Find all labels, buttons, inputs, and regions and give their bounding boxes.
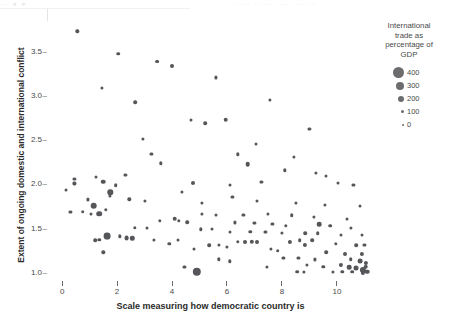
y-tick-mark: – xyxy=(42,179,47,188)
data-point xyxy=(354,266,359,271)
data-point xyxy=(158,219,161,222)
data-point xyxy=(260,180,263,183)
legend-item: 400 xyxy=(378,66,449,79)
data-point xyxy=(271,223,274,226)
data-point xyxy=(312,215,315,218)
x-tick-mark xyxy=(281,281,282,286)
data-point xyxy=(339,263,343,267)
x-tick-mark xyxy=(117,281,118,286)
data-point xyxy=(153,238,156,241)
data-point xyxy=(317,222,322,227)
data-point xyxy=(104,233,111,240)
data-point xyxy=(315,171,318,174)
data-point xyxy=(102,251,105,254)
x-tick-label: 0 xyxy=(60,287,64,296)
data-point xyxy=(73,177,76,180)
x-axis: 0246810 xyxy=(47,281,374,303)
x-tick-mark xyxy=(62,281,63,286)
data-point xyxy=(124,173,127,176)
data-point xyxy=(324,175,327,178)
data-point xyxy=(284,224,287,227)
data-point xyxy=(295,270,299,274)
data-point xyxy=(236,153,239,156)
y-tick-label: 3.0 xyxy=(31,91,42,100)
data-point xyxy=(203,122,207,126)
data-point xyxy=(256,200,259,203)
data-point xyxy=(180,191,183,194)
x-axis-tick: 0 xyxy=(47,281,77,296)
data-point xyxy=(349,226,352,229)
data-point xyxy=(201,212,204,215)
legend-swatch xyxy=(378,82,407,90)
data-point xyxy=(159,161,162,164)
data-point xyxy=(89,212,92,215)
legend-item: 100 xyxy=(378,105,449,118)
x-axis-tick: 2 xyxy=(102,281,132,296)
x-axis-title: Scale measuring how democratic country i… xyxy=(47,301,374,311)
data-point xyxy=(109,194,112,197)
y-tick-mark: – xyxy=(42,91,47,100)
y-tick-mark: – xyxy=(42,223,47,232)
plot-area xyxy=(47,20,374,278)
y-tick-label: 1.0 xyxy=(31,267,42,276)
legend-title: International trade as percentage of GDP xyxy=(378,21,440,59)
legend-label: 0 xyxy=(407,120,411,129)
data-point xyxy=(104,208,107,211)
data-point xyxy=(236,240,239,243)
data-point xyxy=(201,201,204,204)
data-point xyxy=(354,244,358,248)
data-point xyxy=(245,162,250,167)
data-point xyxy=(324,251,328,255)
data-point xyxy=(349,258,353,262)
data-point xyxy=(269,247,272,250)
data-point xyxy=(87,198,90,201)
data-point xyxy=(268,98,271,101)
y-axis-tick: 1.0– xyxy=(2,267,47,276)
data-point xyxy=(304,231,308,235)
data-point xyxy=(234,221,237,224)
data-point xyxy=(98,238,101,241)
data-point xyxy=(168,242,171,245)
data-point xyxy=(282,256,285,259)
legend-dot-icon xyxy=(398,96,404,102)
data-point xyxy=(267,212,270,215)
data-point xyxy=(297,256,300,259)
scatter-plot-figure: ∙∙∙ ● ● ∙∙∙∙∙ ∙∙∙∙∙∙∙ ∙∙∙ ∙∙∙∙∙∙∙∙ Exten… xyxy=(0,0,449,325)
data-point xyxy=(128,198,131,201)
x-tick-mark xyxy=(172,281,173,286)
data-point xyxy=(146,226,149,229)
legend-swatch xyxy=(378,96,407,102)
x-tick-label: 4 xyxy=(170,287,174,296)
data-point xyxy=(265,265,268,268)
data-point xyxy=(290,213,294,217)
y-axis: Extent of ongoing domestic and internati… xyxy=(0,0,47,325)
data-point xyxy=(65,188,68,191)
legend-item: 0 xyxy=(378,118,449,131)
data-point xyxy=(170,64,174,68)
legend: International trade as percentage of GDP… xyxy=(378,21,449,131)
data-point xyxy=(217,258,220,261)
data-point xyxy=(308,127,311,130)
data-point xyxy=(100,86,103,89)
y-tick-mark: – xyxy=(42,46,47,55)
data-point xyxy=(130,236,134,240)
data-point xyxy=(253,222,256,225)
data-point xyxy=(283,169,286,172)
data-point xyxy=(365,270,370,275)
x-axis-tick: 4 xyxy=(157,281,187,296)
data-point xyxy=(90,202,97,209)
data-point xyxy=(177,219,180,222)
top-strip-fragment-right: ∙∙∙∙∙ ∙∙∙∙∙∙∙ ∙∙∙ ∙∙∙∙∙∙∙∙ xyxy=(236,0,318,7)
y-tick-label: 2.5 xyxy=(31,135,42,144)
data-point xyxy=(341,270,344,273)
legend-label: 100 xyxy=(407,107,420,116)
legend-swatch xyxy=(378,110,407,113)
legend-item: 300 xyxy=(378,79,449,92)
data-point xyxy=(133,100,137,104)
data-point xyxy=(363,244,366,247)
legend-label: 400 xyxy=(407,68,420,77)
data-point xyxy=(191,181,195,185)
legend-dot-icon xyxy=(402,124,404,126)
data-point xyxy=(150,153,153,156)
y-tick-label: 3.5 xyxy=(31,46,42,55)
